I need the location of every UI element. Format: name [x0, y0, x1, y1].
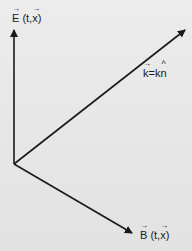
b-close: ) [166, 229, 170, 241]
b-symbol: B [140, 229, 147, 241]
b-args: (t, [147, 229, 160, 241]
e-close: ) [38, 12, 42, 24]
b-field-label: B (t,x) [140, 229, 169, 241]
vector-arrows [0, 0, 192, 251]
k-symbol: k [143, 67, 149, 79]
em-wave-diagram: E (t,x) k=kn B (t,x) [0, 0, 192, 251]
k-eq: =k [149, 67, 161, 79]
e-field-label: E (t,x) [12, 12, 41, 24]
wave-vector-label: k=kn [143, 67, 167, 79]
wave-vector-arrow [14, 30, 185, 164]
b-x: x [160, 229, 166, 241]
e-x: x [32, 12, 38, 24]
n-hat: n [160, 67, 166, 79]
e-symbol: E [12, 12, 19, 24]
b-field-arrow [14, 164, 132, 233]
e-args: (t, [19, 12, 32, 24]
